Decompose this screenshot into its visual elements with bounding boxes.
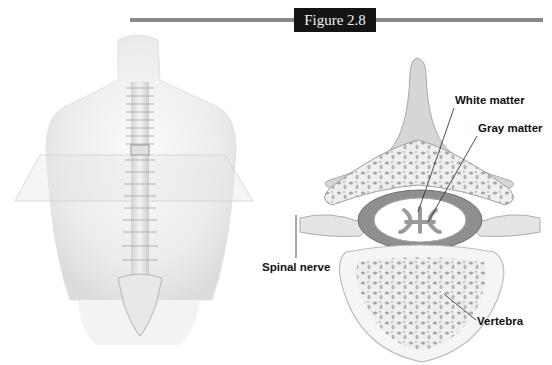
right-transverse-process [475, 215, 540, 237]
label-white-matter: White matter [455, 94, 525, 106]
label-spinal-nerve: Spinal nerve [262, 261, 330, 273]
label-gray-matter: Gray matter [478, 122, 543, 134]
left-transverse-process [300, 215, 365, 237]
label-vertebra: Vertebra [477, 315, 523, 327]
vertebra-cross-section [0, 0, 552, 365]
